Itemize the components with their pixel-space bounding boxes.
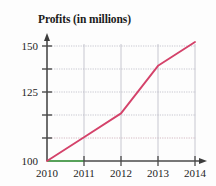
y-axis [42, 33, 52, 161]
y-tick-label-125: 125 [12, 86, 38, 98]
x-tick-label-2014: 2014 [177, 167, 213, 179]
x-tick-label-2012: 2012 [103, 167, 139, 179]
y-tick-label-150: 150 [12, 40, 38, 52]
x-axis-arrow-icon [199, 158, 207, 164]
vertical-gridlines [84, 44, 195, 161]
x-tick-label-2010: 2010 [29, 167, 65, 179]
y-axis-arrow-icon [44, 33, 50, 41]
x-tick-label-2011: 2011 [66, 167, 102, 179]
profits-line-chart: Profits (in millions) [0, 0, 216, 186]
y-tick-label-100: 100 [12, 155, 38, 167]
x-tick-label-2013: 2013 [140, 167, 176, 179]
horizontal-gridlines [47, 46, 196, 138]
x-axis [47, 156, 207, 166]
